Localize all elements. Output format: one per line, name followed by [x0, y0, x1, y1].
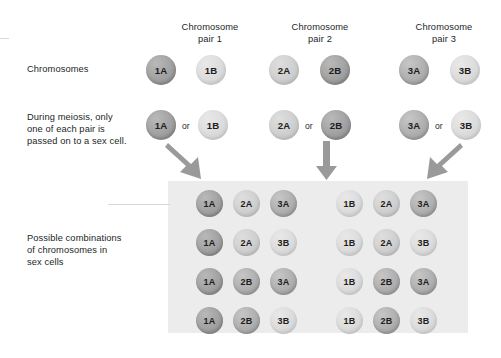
column-header-pair-1-line2: pair 1: [150, 33, 270, 45]
meiosis-assortment-diagram: Chromosome pair 1 Chromosome pair 2 Chro…: [0, 0, 501, 358]
chromosome-1a: 1A: [146, 55, 176, 85]
row-label-combinations: Possible combinations of chromosomes in …: [27, 232, 155, 269]
column-header-pair-3: Chromosome pair 3: [384, 21, 501, 45]
row-label-meiosis: During meiosis, only one of each pair is…: [27, 111, 145, 148]
arrow-pair-2: [316, 141, 338, 185]
column-header-pair-1-line1: Chromosome: [150, 21, 270, 33]
combination-cell: 3B: [410, 229, 437, 256]
combination-cell: 1B: [336, 190, 363, 217]
scan-artifact-rule-left: [0, 38, 9, 39]
combination-cell: 1B: [336, 307, 363, 334]
meiosis-chromosome-1b: 1B: [198, 110, 228, 140]
combination-cell: 1A: [196, 268, 223, 295]
row-label-meiosis-line2: one of each pair is: [27, 123, 145, 135]
column-header-pair-3-line2: pair 3: [384, 33, 501, 45]
combination-cell: 2A: [373, 190, 400, 217]
chromosome-2b: 2B: [320, 55, 350, 85]
combination-cell: 3B: [270, 307, 297, 334]
chromosome-1b: 1B: [196, 55, 226, 85]
meiosis-chromosome-3a: 3A: [399, 110, 429, 140]
combination-cell: 2A: [373, 229, 400, 256]
chromosome-2a: 2A: [269, 55, 299, 85]
combination-cell: 1A: [196, 307, 223, 334]
chromosome-3a: 3A: [399, 55, 429, 85]
chromosome-3b: 3B: [450, 55, 480, 85]
column-header-pair-2-line1: Chromosome: [260, 21, 380, 33]
combination-cell: 2B: [233, 307, 260, 334]
row-label-combinations-line2: of chromosomes in: [27, 244, 155, 256]
column-header-pair-2: Chromosome pair 2: [260, 21, 380, 45]
or-label-pair-1: or: [182, 121, 190, 131]
column-header-pair-3-line1: Chromosome: [384, 21, 501, 33]
row-label-chromosomes: Chromosomes: [27, 63, 147, 75]
combination-cell: 3A: [410, 190, 437, 217]
combination-cell: 3B: [410, 307, 437, 334]
combination-cell: 3A: [270, 190, 297, 217]
combination-cell: 2B: [373, 307, 400, 334]
combination-cell: 2B: [373, 268, 400, 295]
row-label-meiosis-line3: passed on to a sex cell.: [27, 135, 145, 147]
meiosis-chromosome-1a: 1A: [146, 110, 176, 140]
or-label-pair-3: or: [435, 121, 443, 131]
column-header-pair-1: Chromosome pair 1: [150, 21, 270, 45]
meiosis-chromosome-3b: 3B: [451, 110, 481, 140]
combination-cell: 1A: [196, 229, 223, 256]
scan-artifact-rule-connector: [108, 204, 170, 205]
combination-cell: 2A: [233, 190, 260, 217]
combination-cell: 3B: [270, 229, 297, 256]
combination-cell: 1B: [336, 268, 363, 295]
combination-cell: 3A: [410, 268, 437, 295]
column-header-pair-2-line2: pair 2: [260, 33, 380, 45]
or-label-pair-2: or: [305, 121, 313, 131]
row-label-combinations-line3: sex cells: [27, 256, 155, 268]
row-label-combinations-line1: Possible combinations: [27, 232, 155, 244]
combination-cell: 1B: [336, 229, 363, 256]
meiosis-chromosome-2b: 2B: [321, 110, 351, 140]
row-label-meiosis-line1: During meiosis, only: [27, 111, 145, 123]
meiosis-chromosome-2a: 2A: [269, 110, 299, 140]
arrow-pair-3: [411, 141, 463, 185]
combination-cell: 3A: [270, 268, 297, 295]
combination-cell: 2A: [233, 229, 260, 256]
combination-cell: 1A: [196, 190, 223, 217]
combination-cell: 2B: [233, 268, 260, 295]
arrow-pair-1: [165, 141, 217, 185]
